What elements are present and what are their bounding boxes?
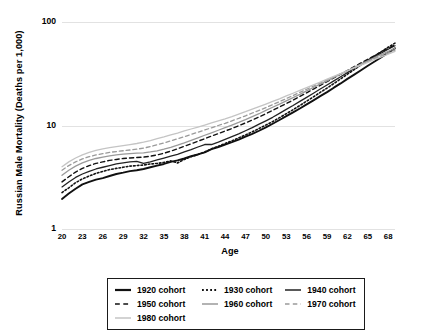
- legend-item[interactable]: 1940 cohort: [284, 285, 360, 295]
- legend-label: 1980 cohort: [137, 313, 185, 323]
- legend-label: 1950 cohort: [137, 299, 185, 309]
- legend-swatch-icon: [201, 285, 219, 295]
- legend-label: 1960 cohort: [224, 299, 272, 309]
- legend-swatch-icon: [201, 299, 219, 309]
- x-axis-title: Age: [60, 246, 400, 256]
- legend-swatch-icon: [114, 285, 132, 295]
- legend-item[interactable]: 1960 cohort: [201, 299, 284, 309]
- legend-row: 1980 cohort: [114, 311, 360, 325]
- legend-label: 1970 cohort: [307, 299, 355, 309]
- legend-row: 1920 cohort1930 cohort1940 cohort: [114, 283, 360, 297]
- series-line: [62, 48, 395, 175]
- legend-swatch-icon: [284, 285, 302, 295]
- legend-item[interactable]: 1970 cohort: [284, 299, 360, 309]
- chart-figure: Russian Male Mortality (Deaths per 1,000…: [0, 0, 428, 335]
- legend-swatch-icon: [114, 313, 132, 323]
- legend-item[interactable]: 1920 cohort: [114, 285, 201, 295]
- legend-row: 1950 cohort1960 cohort1970 cohort: [114, 297, 360, 311]
- series-line: [62, 51, 395, 166]
- legend-item[interactable]: 1930 cohort: [201, 285, 284, 295]
- legend-label: 1930 cohort: [224, 285, 272, 295]
- legend-label: 1920 cohort: [137, 285, 185, 295]
- series-line: [62, 45, 395, 182]
- legend-item[interactable]: 1950 cohort: [114, 299, 201, 309]
- chart-legend: 1920 cohort1930 cohort1940 cohort1950 co…: [107, 278, 365, 330]
- series-line: [62, 48, 395, 199]
- legend-item[interactable]: 1980 cohort: [114, 313, 206, 323]
- series-line: [62, 50, 395, 170]
- legend-swatch-icon: [284, 299, 302, 309]
- legend-swatch-icon: [114, 299, 132, 309]
- legend-label: 1940 cohort: [307, 285, 355, 295]
- series-line: [62, 46, 395, 187]
